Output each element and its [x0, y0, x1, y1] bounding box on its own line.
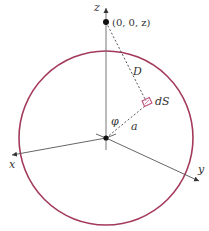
angle-label: φ	[111, 115, 119, 128]
point-label: (0, 0, z)	[112, 17, 151, 28]
x-axis-label: x	[9, 158, 16, 171]
y-axis	[106, 138, 199, 181]
surface-element-label: dS	[155, 95, 170, 108]
x-axis	[12, 138, 106, 155]
radius-label: a	[131, 120, 138, 133]
origin-point	[103, 135, 108, 140]
z-axis-label: z	[93, 1, 100, 14]
sphere-diagram: z (0, 0, z) D dS φ a x y	[0, 0, 209, 231]
distance-label: D	[132, 65, 142, 78]
y-axis-label: y	[197, 163, 205, 176]
point-z	[103, 19, 109, 25]
distance-line	[106, 22, 146, 101]
